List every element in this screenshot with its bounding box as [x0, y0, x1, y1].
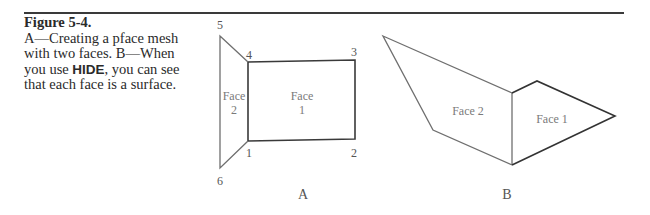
diagram-a-label: A: [298, 187, 309, 202]
vertex-label-1: 1: [246, 146, 252, 160]
vertex-label-3: 3: [351, 45, 357, 59]
face-2-hidden-outline: [383, 36, 512, 165]
diagram-b-label: B: [502, 187, 511, 202]
diagram-b: Face 2 Face 1 B: [383, 36, 615, 202]
vertex-label-2: 2: [351, 146, 357, 160]
vertex-label-4: 4: [246, 48, 252, 62]
face-2-label-b: Face 2: [452, 104, 484, 118]
diagram-a: 5 4 3 1 2 6 Face 2 Face 1 A: [217, 18, 357, 202]
face-1-label-line1: Face: [291, 89, 314, 103]
vertex-label-6: 6: [217, 174, 223, 188]
vertex-label-5: 5: [217, 18, 223, 32]
face-2-label-line2: 2: [231, 103, 237, 117]
face-1-label-line2: 1: [299, 103, 305, 117]
face-1-label-b: Face 1: [536, 112, 568, 126]
figure-illustration: 5 4 3 1 2 6 Face 2 Face 1 A Face 2 Face …: [0, 0, 650, 215]
face-2-label-line1: Face: [223, 89, 246, 103]
